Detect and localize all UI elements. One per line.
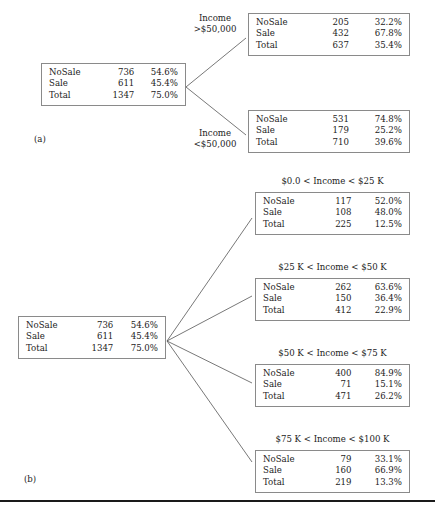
row-count: 412 <box>321 305 351 316</box>
table-row: NoSale 400 84.9% <box>263 368 402 379</box>
table-row: NoSale 531 74.8% <box>256 114 402 125</box>
table-row: Total 710 39.6% <box>256 137 402 148</box>
row-label: Sale <box>263 379 321 390</box>
row-label: NoSale <box>263 454 321 465</box>
node-a-branch-1: NoSale 205 32.2% Sale 432 67.8% Total 63… <box>248 13 410 56</box>
row-percent: 45.4% <box>113 331 158 342</box>
row-label: Sale <box>263 293 321 304</box>
row-percent: 52.0% <box>352 196 402 207</box>
branch-label-line2: <$50,000 <box>181 139 249 150</box>
node-a-root: NoSale 736 54.6% Sale 611 45.4% Total 13… <box>41 63 186 106</box>
connector-b-3 <box>167 341 252 383</box>
node-b-branch-2: NoSale 262 63.6% Sale 150 36.4% Total 41… <box>255 278 410 321</box>
row-count: 1347 <box>99 90 134 101</box>
row-percent: 75.0% <box>134 90 178 101</box>
branch-label-line1: Income <box>199 128 231 138</box>
table-row: NoSale 79 33.1% <box>263 454 402 465</box>
row-label: Total <box>26 343 78 354</box>
table-row: Total 225 12.5% <box>263 219 402 230</box>
table-row: NoSale 205 32.2% <box>256 17 402 28</box>
row-count: 400 <box>321 368 351 379</box>
table-row: NoSale 262 63.6% <box>263 282 402 293</box>
row-count: 531 <box>317 114 349 125</box>
table-row: Total 412 22.9% <box>263 305 402 316</box>
row-label: NoSale <box>263 282 321 293</box>
row-label: Sale <box>256 125 317 136</box>
table-row: Sale 179 25.2% <box>256 125 402 136</box>
row-percent: 84.9% <box>352 368 402 379</box>
row-count: 262 <box>321 282 351 293</box>
row-label: Total <box>263 219 321 230</box>
row-count: 160 <box>321 465 351 476</box>
row-percent: 54.6% <box>113 320 158 331</box>
table-row: Total 637 35.4% <box>256 40 402 51</box>
row-count: 179 <box>317 125 349 136</box>
row-label: NoSale <box>26 320 78 331</box>
table-row: NoSale 736 54.6% <box>26 320 158 331</box>
row-count: 225 <box>321 219 351 230</box>
table-row: Total 1347 75.0% <box>26 343 158 354</box>
row-label: Sale <box>256 28 317 39</box>
row-percent: 35.4% <box>349 40 402 51</box>
panel-letter-a: (a) <box>34 134 46 144</box>
row-percent: 54.6% <box>134 67 178 78</box>
connector-b-1 <box>167 218 252 341</box>
row-percent: 67.8% <box>349 28 402 39</box>
row-label: Sale <box>49 78 99 89</box>
row-count: 1347 <box>78 343 114 354</box>
table-row: Sale 611 45.4% <box>26 331 158 342</box>
table-row: Sale 71 15.1% <box>263 379 402 390</box>
row-percent: 12.5% <box>352 219 402 230</box>
row-count: 71 <box>321 379 351 390</box>
table-row: Sale 108 48.0% <box>263 207 402 218</box>
row-count: 611 <box>99 78 134 89</box>
node-b-root: NoSale 736 54.6% Sale 611 45.4% Total 13… <box>18 316 166 359</box>
row-percent: 45.4% <box>134 78 178 89</box>
box-caption-b-4: $75 K < Income < $100 K <box>255 434 410 445</box>
row-label: Total <box>263 477 321 488</box>
box-caption-b-2: $25 K < Income < $50 K <box>255 262 410 273</box>
row-percent: 25.2% <box>349 125 402 136</box>
row-label: NoSale <box>263 368 321 379</box>
row-percent: 74.8% <box>349 114 402 125</box>
node-b-branch-1: NoSale 117 52.0% Sale 108 48.0% Total 22… <box>255 192 410 235</box>
table-row: Sale 432 67.8% <box>256 28 402 39</box>
table-row: NoSale 736 54.6% <box>49 67 178 78</box>
row-count: 637 <box>317 40 349 51</box>
node-b-branch-3: NoSale 400 84.9% Sale 71 15.1% Total 471… <box>255 364 410 407</box>
row-count: 710 <box>317 137 349 148</box>
row-percent: 63.6% <box>352 282 402 293</box>
row-percent: 22.9% <box>352 305 402 316</box>
row-label: NoSale <box>263 196 321 207</box>
box-caption-b-1: $0.0 < Income < $25 K <box>255 176 410 187</box>
row-label: NoSale <box>256 114 317 125</box>
row-count: 432 <box>317 28 349 39</box>
panel-letter-b: (b) <box>24 474 36 484</box>
row-percent: 48.0% <box>352 207 402 218</box>
row-percent: 75.0% <box>113 343 158 354</box>
row-label: NoSale <box>256 17 317 28</box>
row-count: 736 <box>78 320 114 331</box>
node-a-branch-2: NoSale 531 74.8% Sale 179 25.2% Total 71… <box>248 110 410 153</box>
box-caption-b-3: $50 K < Income < $75 K <box>255 348 410 359</box>
row-percent: 26.2% <box>352 391 402 402</box>
row-label: Sale <box>263 207 321 218</box>
row-label: Total <box>263 391 321 402</box>
branch-label-line2: >$50,000 <box>181 24 249 35</box>
row-percent: 39.6% <box>349 137 402 148</box>
row-percent: 13.3% <box>352 477 402 488</box>
table-row: Total 219 13.3% <box>263 477 402 488</box>
decision-tree-figure: NoSale 736 54.6% Sale 611 45.4% Total 13… <box>0 0 435 513</box>
row-label: Sale <box>263 465 321 476</box>
branch-label-a-lower: Income <$50,000 <box>181 128 249 151</box>
row-percent: 32.2% <box>349 17 402 28</box>
row-label: Total <box>263 305 321 316</box>
row-percent: 15.1% <box>352 379 402 390</box>
row-label: Sale <box>26 331 78 342</box>
bottom-rule <box>0 500 435 502</box>
table-row: NoSale 117 52.0% <box>263 196 402 207</box>
table-row: Sale 150 36.4% <box>263 293 402 304</box>
row-count: 117 <box>321 196 351 207</box>
table-row: Total 1347 75.0% <box>49 90 178 101</box>
connector-b-2 <box>167 296 252 341</box>
